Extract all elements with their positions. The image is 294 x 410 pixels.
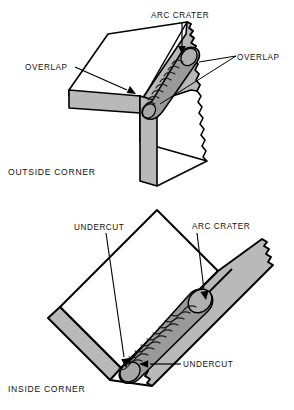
panel-outside-corner: ARC CRATER OVERLAP OVERLAP OUTSIDE CORNE…: [0, 0, 294, 200]
label-overlap-left: OVERLAP: [25, 63, 68, 72]
lower-break-edge: [157, 161, 207, 186]
label-inside-arc-crater: ARC CRATER: [192, 222, 250, 231]
panel-title-inside-corner: INSIDE CORNER: [8, 384, 85, 394]
panel-title-outside-corner: OUTSIDE CORNER: [8, 167, 96, 177]
label-overlap-right: OVERLAP: [237, 53, 280, 62]
welding-diagram-figure: ARC CRATER OVERLAP OVERLAP OUTSIDE CORNE…: [0, 0, 294, 410]
label-arc-crater: ARC CRATER: [151, 11, 209, 20]
label-undercut-top: UNDERCUT: [74, 223, 124, 232]
label-undercut-bottom: UNDERCUT: [183, 360, 233, 369]
panel-inside-corner: UNDERCUT ARC CRATER UNDERCUT INSIDE CORN…: [0, 200, 294, 410]
